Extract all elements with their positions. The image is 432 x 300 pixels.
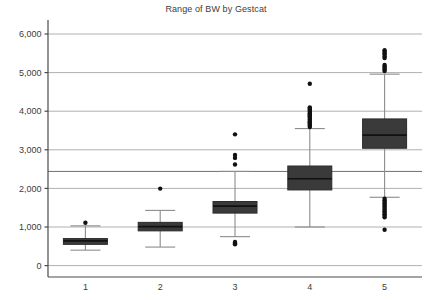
outlier-point (308, 105, 312, 109)
outlier-point (83, 221, 87, 225)
x-axis-tick-label: 1 (83, 282, 88, 292)
outlier-point (233, 153, 237, 157)
y-axis-tick-label: 2,000 (19, 184, 42, 194)
chart-title: Range of BW by Gestcat (0, 4, 432, 14)
box-plot-series (213, 132, 257, 246)
box-iqr (213, 202, 257, 214)
x-axis-tick-label: 5 (382, 282, 387, 292)
box-plot-series (63, 221, 107, 251)
box-plot-chart: Range of BW by Gestcat 01,0002,0003,0004… (0, 0, 432, 300)
outlier-point (233, 240, 237, 244)
outlier-point (308, 82, 312, 86)
plot-area: 01,0002,0003,0004,0005,0006,00012345 (0, 0, 432, 300)
outlier-point (382, 63, 386, 67)
x-axis-tick-label: 3 (232, 282, 237, 292)
x-axis-tick-label: 2 (158, 282, 163, 292)
y-axis-tick-label: 6,000 (19, 29, 42, 39)
box-plot-series (288, 82, 332, 227)
y-axis-tick-label: 1,000 (19, 222, 42, 232)
box-plot-series (138, 186, 182, 247)
y-axis-tick-label: 0 (36, 261, 41, 271)
box-iqr (363, 119, 407, 148)
y-axis-tick-label: 3,000 (19, 145, 42, 155)
outlier-point (382, 48, 386, 52)
outlier-point (233, 162, 237, 166)
outlier-point (382, 197, 386, 201)
outlier-point (382, 228, 386, 232)
outlier-point (158, 186, 162, 190)
y-axis-tick-label: 4,000 (19, 106, 42, 116)
y-axis-tick-label: 5,000 (19, 68, 42, 78)
x-axis-tick-label: 4 (307, 282, 312, 292)
outlier-point (233, 132, 237, 136)
box-plot-series (363, 48, 407, 232)
